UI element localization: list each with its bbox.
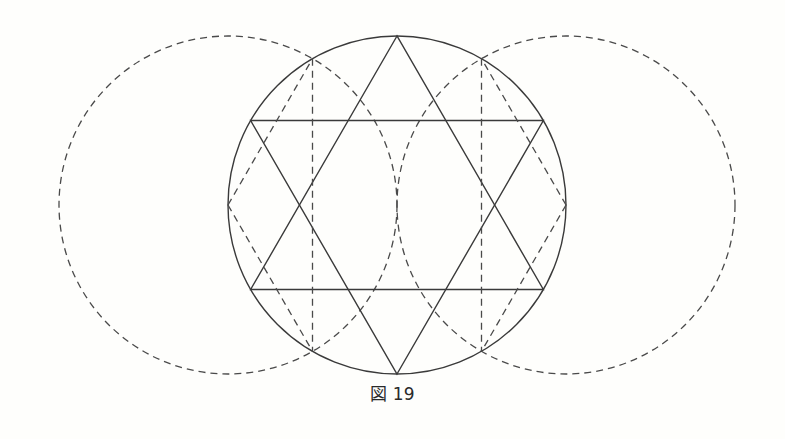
right-upper-dashed-line [482,59,567,205]
left-upper-dashed-line [228,59,313,205]
right-lower-dashed-line [482,205,567,351]
left-lower-dashed-line [228,205,313,351]
figure-caption: 図 19 [0,380,785,405]
upward-triangle [251,36,544,290]
downward-triangle [251,121,544,375]
diagram-canvas [0,0,785,439]
